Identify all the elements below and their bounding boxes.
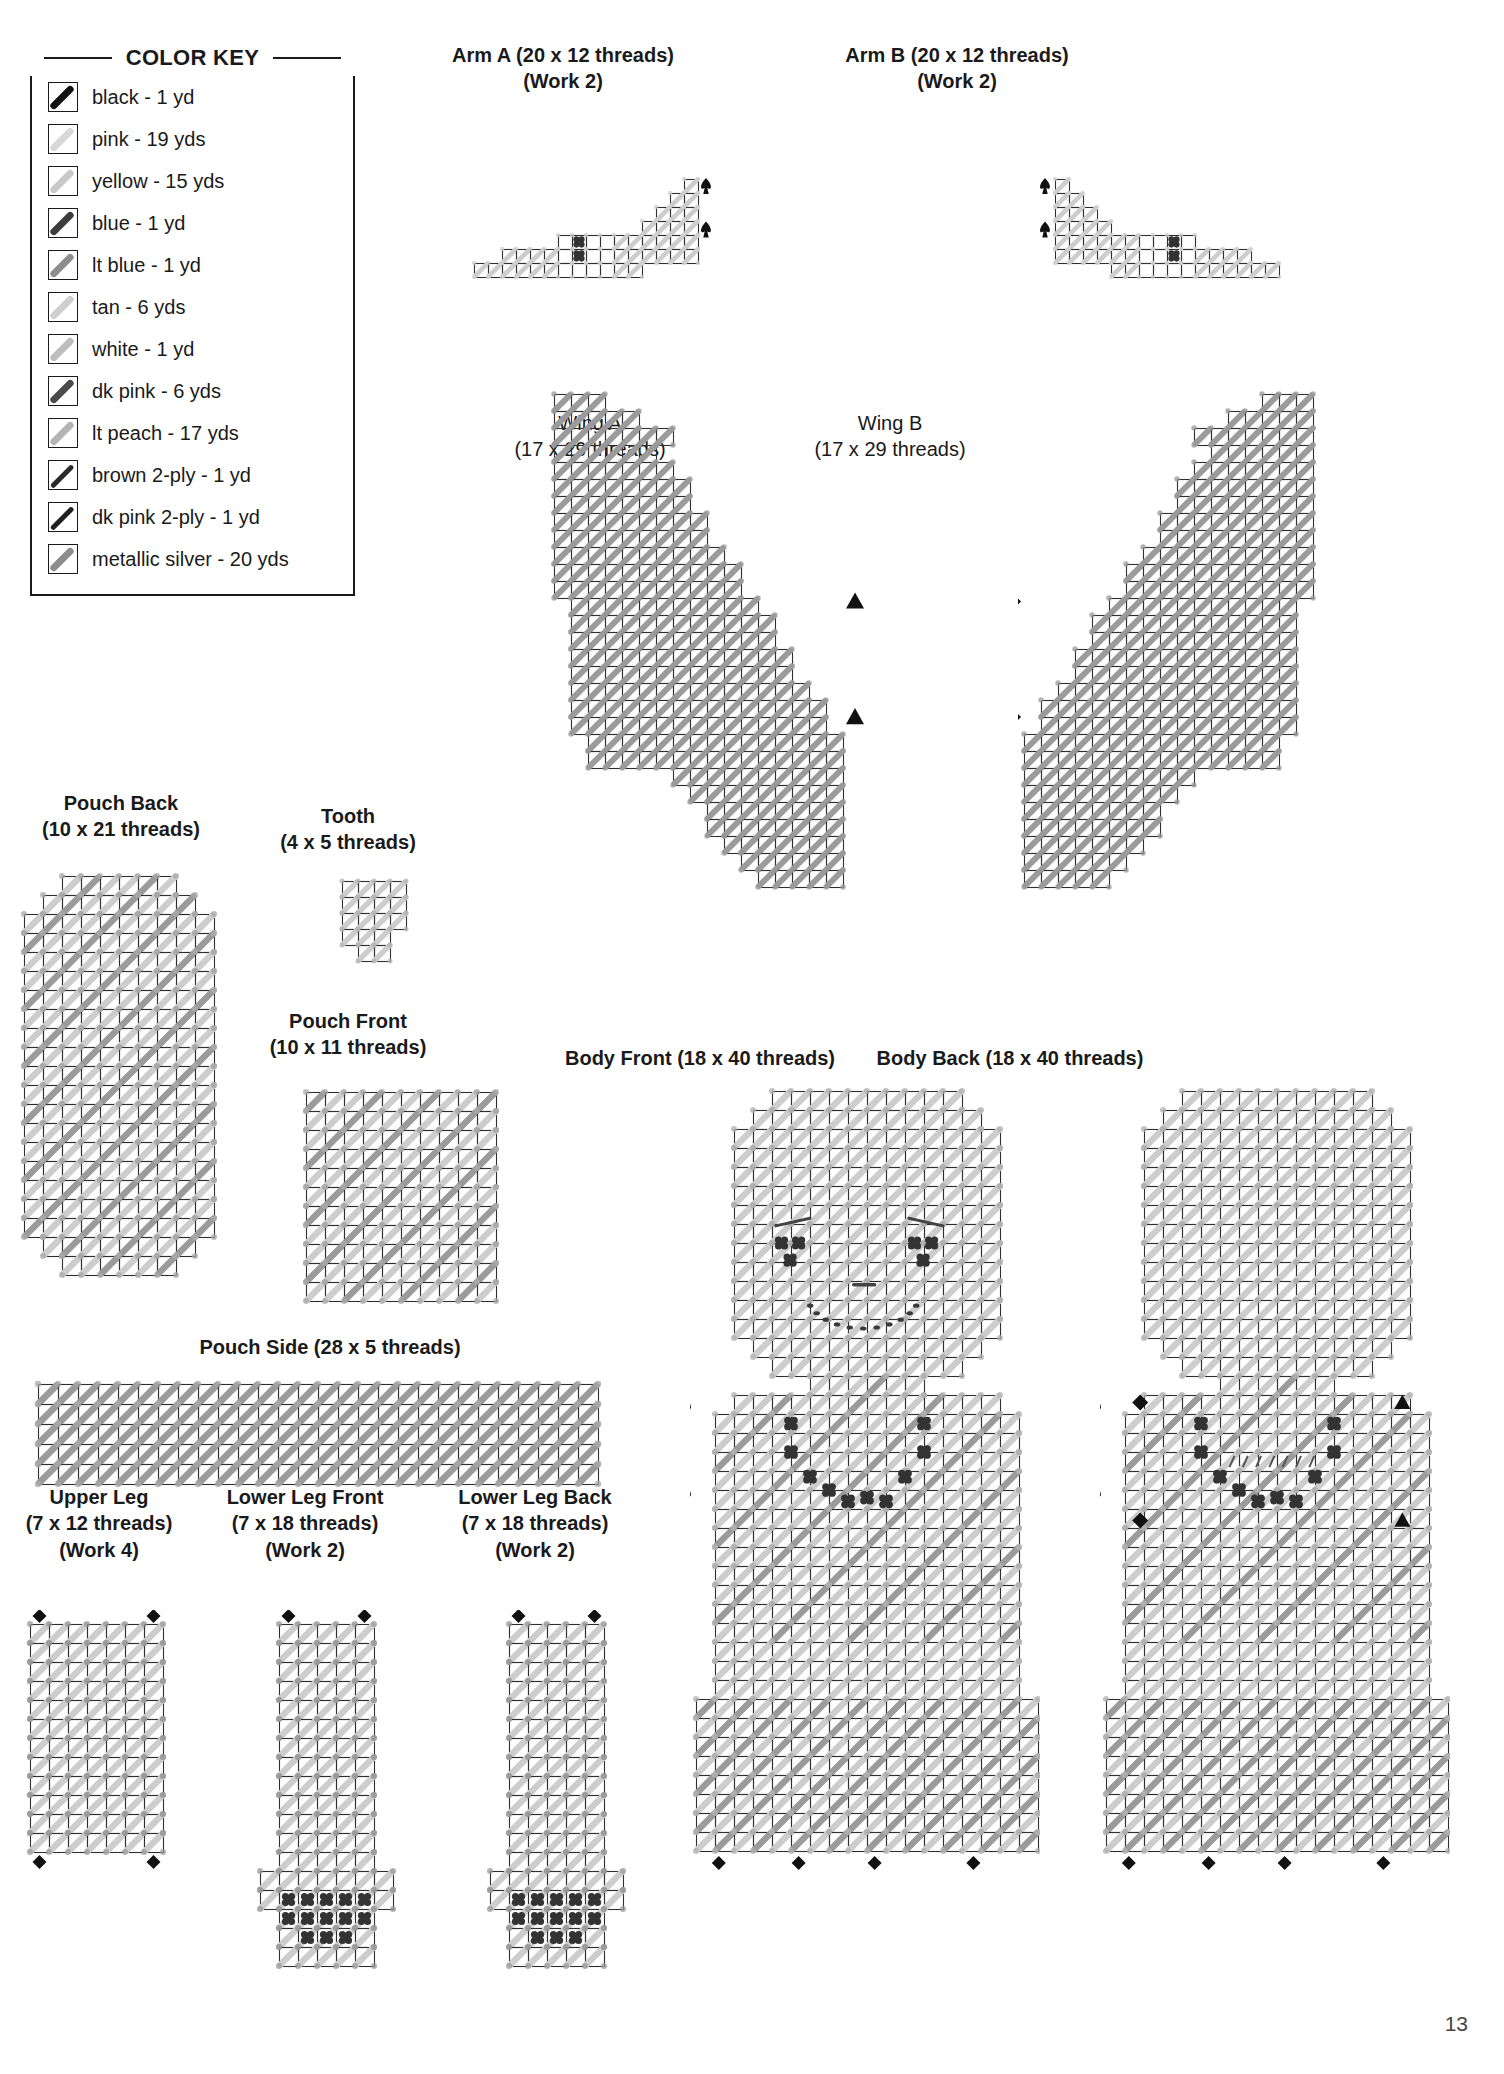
chart-title-upper-leg-sub: (7 x 12 threads): [0, 1510, 204, 1536]
color-key-panel: black - 1 ydpink - 19 ydsyellow - 15 yds…: [30, 58, 355, 596]
color-key-label: tan - 6 yds: [92, 297, 185, 317]
chart-wing-b: [1018, 388, 1348, 988]
color-key-label: pink - 19 yds: [92, 129, 205, 149]
color-key-row: yellow - 15 yds: [48, 160, 343, 202]
color-key-label: lt peach - 17 yds: [92, 423, 239, 443]
chart-pouch-back: [18, 870, 238, 1300]
chart-title-pouch-back-main: Pouch Back: [6, 790, 236, 816]
color-swatch-icon: [48, 82, 78, 112]
color-key-label: dk pink - 6 yds: [92, 381, 221, 401]
page-number: 13: [1445, 2012, 1468, 2036]
chart-tooth: [336, 875, 436, 985]
chart-title-pouch-back-sub: (10 x 21 threads): [6, 816, 236, 842]
color-swatch-icon: [48, 250, 78, 280]
color-key-label: dk pink 2-ply - 1 yd: [92, 507, 260, 527]
chart-pouch-front: [300, 1082, 520, 1322]
chart-arm-a: [470, 105, 770, 315]
color-swatch-icon: [48, 502, 78, 532]
chart-title-body-front-main: Body Front (18 x 40 threads): [530, 1045, 870, 1071]
chart-title-tooth-main: Tooth: [258, 803, 438, 829]
color-key-row: lt blue - 1 yd: [48, 244, 343, 286]
chart-title-upper-leg: Upper Leg (7 x 12 threads) (Work 4): [0, 1484, 204, 1563]
chart-title-lower-leg-back-sub2: (Work 2): [420, 1537, 650, 1563]
chart-title-lower-leg-front-sub: (7 x 18 threads): [190, 1510, 420, 1536]
color-key-label: yellow - 15 yds: [92, 171, 224, 191]
chart-title-arm-a: Arm A (20 x 12 threads) (Work 2): [428, 42, 698, 95]
chart-lower-leg-front: [250, 1610, 410, 2010]
chart-title-arm-a-main: Arm A (20 x 12 threads): [428, 42, 698, 68]
color-key-label: black - 1 yd: [92, 87, 194, 107]
chart-title-arm-a-sub: (Work 2): [428, 68, 698, 94]
color-key-row: black - 1 yd: [48, 76, 343, 118]
chart-title-body-back: Body Back (18 x 40 threads): [840, 1045, 1180, 1071]
color-key-row: white - 1 yd: [48, 328, 343, 370]
chart-title-pouch-front-sub: (10 x 11 threads): [228, 1034, 468, 1060]
color-key-row: tan - 6 yds: [48, 286, 343, 328]
color-swatch-icon: [48, 292, 78, 322]
chart-title-body-back-main: Body Back (18 x 40 threads): [840, 1045, 1180, 1071]
chart-upper-leg: [20, 1610, 180, 1890]
color-swatch-icon: [48, 208, 78, 238]
chart-title-lower-leg-front-sub2: (Work 2): [190, 1537, 420, 1563]
chart-title-pouch-front: Pouch Front (10 x 11 threads): [228, 1008, 468, 1061]
chart-arm-b: [995, 105, 1295, 315]
chart-title-body-front: Body Front (18 x 40 threads): [530, 1045, 870, 1071]
chart-title-arm-b-main: Arm B (20 x 12 threads): [822, 42, 1092, 68]
chart-title-pouch-side-main: Pouch Side (28 x 5 threads): [120, 1334, 540, 1360]
pattern-page: COLOR KEY black - 1 ydpink - 19 ydsyello…: [0, 0, 1504, 2074]
chart-lower-leg-back: [480, 1610, 640, 2010]
color-key-row: pink - 19 yds: [48, 118, 343, 160]
color-swatch-icon: [48, 376, 78, 406]
color-key-row: brown 2-ply - 1 yd: [48, 454, 343, 496]
color-key-row: dk pink 2-ply - 1 yd: [48, 496, 343, 538]
chart-title-pouch-front-main: Pouch Front: [228, 1008, 468, 1034]
chart-title-pouch-back: Pouch Back (10 x 21 threads): [6, 790, 236, 843]
color-swatch-icon: [48, 166, 78, 196]
color-key-label: blue - 1 yd: [92, 213, 185, 233]
chart-title-lower-leg-back: Lower Leg Back (7 x 18 threads) (Work 2): [420, 1484, 650, 1563]
chart-wing-a: [548, 388, 878, 988]
chart-title-lower-leg-front: Lower Leg Front (7 x 18 threads) (Work 2…: [190, 1484, 420, 1563]
color-key-label: lt blue - 1 yd: [92, 255, 201, 275]
chart-title-pouch-side: Pouch Side (28 x 5 threads): [120, 1334, 540, 1360]
chart-body-back: [1100, 1085, 1450, 1985]
color-key-label: metallic silver - 20 yds: [92, 549, 289, 569]
chart-title-arm-b: Arm B (20 x 12 threads) (Work 2): [822, 42, 1092, 95]
color-swatch-icon: [48, 544, 78, 574]
chart-title-upper-leg-sub2: (Work 4): [0, 1537, 204, 1563]
chart-title-tooth-sub: (4 x 5 threads): [258, 829, 438, 855]
chart-body-front: [690, 1085, 1040, 1985]
chart-title-lower-leg-back-sub: (7 x 18 threads): [420, 1510, 650, 1536]
color-key-label: white - 1 yd: [92, 339, 194, 359]
color-key-list: black - 1 ydpink - 19 ydsyellow - 15 yds…: [48, 76, 343, 580]
color-key-row: metallic silver - 20 yds: [48, 538, 343, 580]
chart-title-tooth: Tooth (4 x 5 threads): [258, 803, 438, 856]
color-key-row: blue - 1 yd: [48, 202, 343, 244]
color-swatch-icon: [48, 460, 78, 490]
chart-pouch-side: [32, 1378, 642, 1493]
color-swatch-icon: [48, 334, 78, 364]
chart-title-arm-b-sub: (Work 2): [822, 68, 1092, 94]
color-key-row: lt peach - 17 yds: [48, 412, 343, 454]
color-swatch-icon: [48, 418, 78, 448]
color-key-row: dk pink - 6 yds: [48, 370, 343, 412]
color-swatch-icon: [48, 124, 78, 154]
color-key-label: brown 2-ply - 1 yd: [92, 465, 251, 485]
